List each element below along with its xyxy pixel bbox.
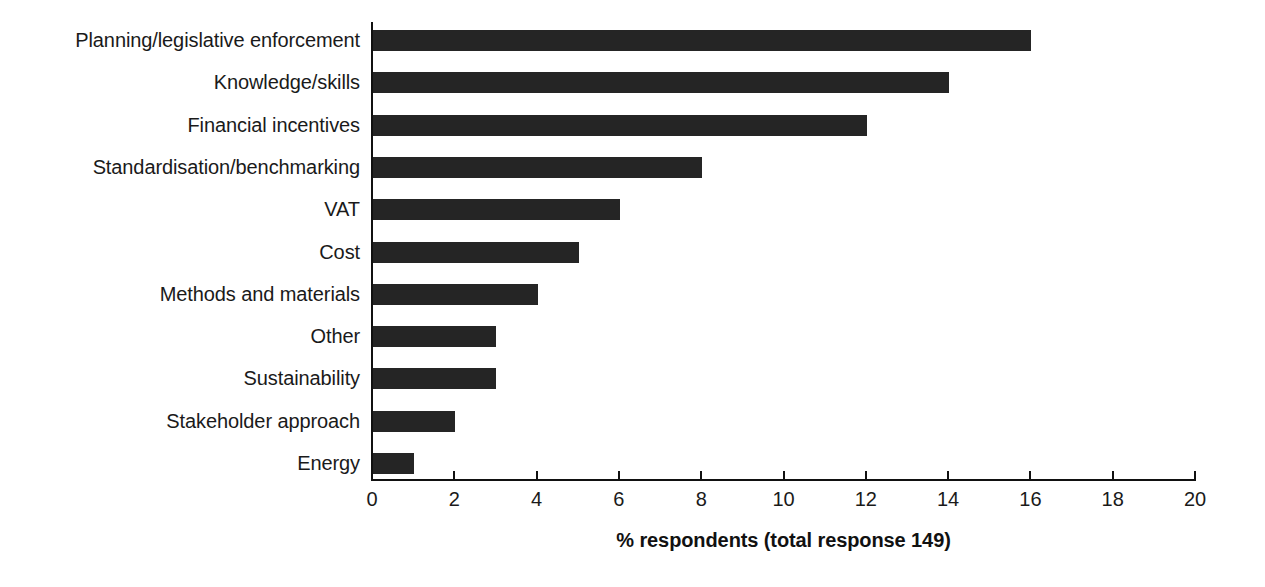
bar bbox=[373, 368, 496, 389]
category-label: Energy bbox=[0, 453, 360, 474]
bar-fill bbox=[373, 411, 455, 432]
bar-fill bbox=[373, 72, 949, 93]
category-label: Planning/legislative enforcement bbox=[0, 30, 360, 51]
x-axis-tick-label: 12 bbox=[836, 487, 896, 511]
x-axis-tick-label: 20 bbox=[1165, 487, 1225, 511]
category-label: Standardisation/benchmarking bbox=[0, 157, 360, 178]
bar-fill bbox=[373, 157, 702, 178]
bar bbox=[373, 157, 702, 178]
bar-fill bbox=[373, 30, 1031, 51]
x-axis-tick-label: 6 bbox=[589, 487, 649, 511]
bar-fill bbox=[373, 199, 620, 220]
bar bbox=[373, 326, 496, 347]
bar bbox=[373, 411, 455, 432]
category-label: Financial incentives bbox=[0, 115, 360, 136]
category-label: Sustainability bbox=[0, 368, 360, 389]
bar-fill bbox=[373, 453, 414, 474]
category-label: Other bbox=[0, 326, 360, 347]
bar bbox=[373, 72, 949, 93]
bar-fill bbox=[373, 326, 496, 347]
bar-fill bbox=[373, 242, 579, 263]
bar-chart-figure: Planning/legislative enforcementKnowledg… bbox=[0, 0, 1265, 587]
x-axis-tick-label: 0 bbox=[342, 487, 402, 511]
category-label: Stakeholder approach bbox=[0, 411, 360, 432]
bar-group bbox=[373, 22, 1196, 481]
bar-fill bbox=[373, 115, 867, 136]
bar bbox=[373, 30, 1031, 51]
x-axis-tick-label: 16 bbox=[1000, 487, 1060, 511]
bar-fill bbox=[373, 368, 496, 389]
x-axis-title: % respondents (total response 149) bbox=[372, 529, 1195, 552]
category-label-group: Planning/legislative enforcementKnowledg… bbox=[0, 22, 360, 481]
bar bbox=[373, 284, 538, 305]
bar bbox=[373, 453, 414, 474]
x-axis-tick-label: 8 bbox=[671, 487, 731, 511]
category-label: Methods and materials bbox=[0, 284, 360, 305]
bar-fill bbox=[373, 284, 538, 305]
category-label: Knowledge/skills bbox=[0, 72, 360, 93]
x-axis-tick-label: 18 bbox=[1083, 487, 1143, 511]
bar bbox=[373, 115, 867, 136]
x-axis-tick-label: 14 bbox=[918, 487, 978, 511]
category-label: VAT bbox=[0, 199, 360, 220]
x-axis-tick-label: 10 bbox=[754, 487, 814, 511]
x-axis-tick-label: 2 bbox=[424, 487, 484, 511]
bar bbox=[373, 242, 579, 263]
bar bbox=[373, 199, 620, 220]
category-label: Cost bbox=[0, 242, 360, 263]
x-axis-tick-label: 4 bbox=[507, 487, 567, 511]
